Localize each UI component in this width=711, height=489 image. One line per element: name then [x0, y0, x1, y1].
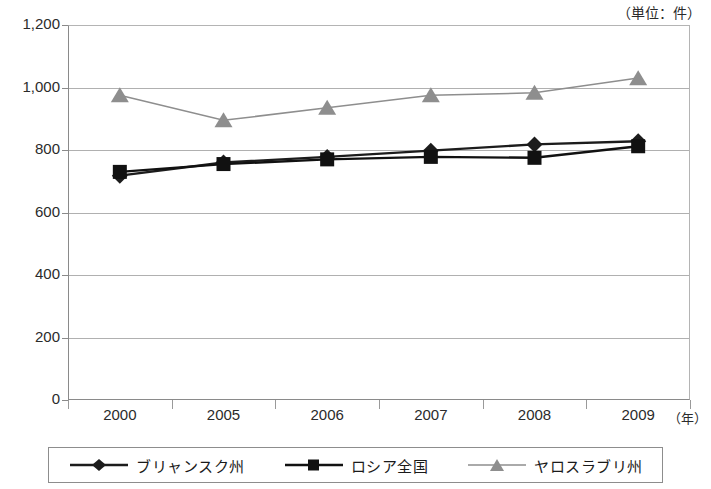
gridline: [69, 213, 689, 214]
x-tick-label: 2008: [490, 406, 580, 423]
square-marker-icon: [283, 457, 345, 473]
y-tick-label: 0: [4, 390, 60, 407]
cropped-title-text: [8, 0, 428, 8]
x-tick-label: 2000: [75, 406, 165, 423]
legend-item-russia[interactable]: ロシア全国: [283, 455, 429, 476]
x-tick-label: 2007: [386, 406, 476, 423]
x-axis-unit-label: （年）: [668, 408, 707, 427]
gridline: [69, 338, 689, 339]
x-tick-mark: [172, 400, 173, 409]
y-axis-unit-label: （単位：件）: [617, 2, 701, 22]
y-tick-label: 1,200: [4, 15, 60, 32]
gridline: [69, 88, 689, 89]
legend-label-russia: ロシア全国: [351, 455, 429, 476]
legend-item-bryansk[interactable]: ブリャンスク州: [68, 455, 245, 476]
x-tick-mark: [586, 400, 587, 409]
gridline: [69, 275, 689, 276]
y-tick-label: 1,000: [4, 78, 60, 95]
x-tick-mark: [483, 400, 484, 409]
y-tick-label: 200: [4, 328, 60, 345]
gridline: [69, 150, 689, 151]
x-tick-label: 2006: [282, 406, 372, 423]
y-tick-label: 800: [4, 140, 60, 157]
legend-label-bryansk: ブリャンスク州: [136, 455, 245, 476]
legend-label-yaroslavl: ヤロスラブリ州: [534, 455, 643, 476]
triangle-marker-icon: [466, 457, 528, 473]
x-tick-label: 2005: [179, 406, 269, 423]
plot-area: [68, 25, 690, 400]
y-tick-label: 600: [4, 203, 60, 220]
x-tick-mark: [379, 400, 380, 409]
x-tick-mark: [275, 400, 276, 409]
y-tick-label: 400: [4, 265, 60, 282]
x-tick-mark: [68, 400, 69, 409]
diamond-marker-icon: [68, 457, 130, 473]
chart-container: （単位：件） 02004006008001,0001,200 200020052…: [0, 0, 711, 489]
chart-legend: ブリャンスク州 ロシア全国 ヤロスラブリ州: [48, 447, 663, 483]
legend-item-yaroslavl[interactable]: ヤロスラブリ州: [466, 455, 643, 476]
